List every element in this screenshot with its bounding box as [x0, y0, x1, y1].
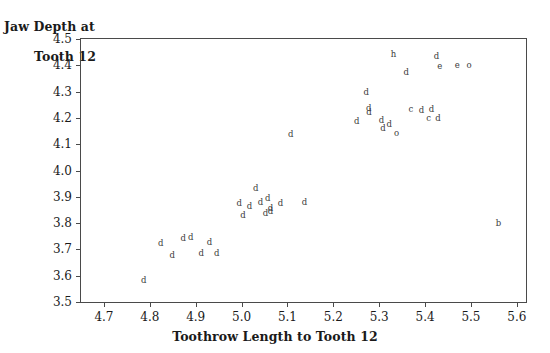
y-axis-tick	[76, 118, 81, 119]
x-axis-title: Toothrow Length to Tooth 12	[0, 329, 550, 344]
x-axis-tick	[104, 302, 105, 307]
data-point-marker: d	[354, 117, 359, 126]
data-point-marker: d	[240, 210, 245, 219]
data-point-marker: c	[408, 105, 413, 114]
x-axis-tick	[379, 302, 380, 307]
x-axis-tick-label: 5.5	[461, 310, 480, 324]
y-axis-tick	[76, 249, 81, 250]
data-point-marker: d	[435, 114, 440, 123]
y-axis-tick-label: 3.8	[53, 216, 72, 230]
data-point-marker: d	[207, 238, 212, 247]
data-point-marker: d	[434, 52, 439, 61]
plot-area: 4.54.44.34.24.14.03.93.83.73.63.54.74.84…	[80, 38, 527, 303]
y-axis-tick-label: 3.9	[53, 190, 72, 204]
data-point-marker: o	[467, 61, 472, 70]
data-point-marker: d	[258, 198, 263, 207]
data-point-marker: d	[366, 108, 371, 117]
x-axis-tick-label: 5.4	[416, 310, 435, 324]
data-point-marker: d	[278, 198, 283, 207]
data-point-marker: d	[253, 183, 258, 192]
y-axis-tick	[76, 171, 81, 172]
x-axis-tick	[333, 302, 334, 307]
x-axis-tick	[471, 302, 472, 307]
x-axis-tick-label: 5.1	[278, 310, 297, 324]
data-point-marker: d	[268, 207, 273, 216]
data-point-marker: d	[302, 198, 307, 207]
x-axis-tick	[517, 302, 518, 307]
data-point-marker: d	[429, 105, 434, 114]
data-point-marker: b	[496, 219, 501, 228]
x-axis-tick-label: 5.2	[324, 310, 343, 324]
data-point-marker: d	[188, 233, 193, 242]
data-point-marker: d	[404, 67, 409, 76]
y-axis-tick	[76, 223, 81, 224]
y-axis-tick-label: 4.4	[53, 58, 72, 72]
x-axis-tick-label: 4.8	[140, 310, 159, 324]
data-point-marker: d	[380, 123, 385, 132]
x-axis-tick	[150, 302, 151, 307]
y-axis-tick	[76, 65, 81, 66]
x-axis-tick	[425, 302, 426, 307]
x-axis-tick-label: 5.3	[370, 310, 389, 324]
data-point-marker: d	[170, 251, 175, 260]
data-point-marker: d	[265, 193, 270, 202]
y-axis-tick-label: 4.0	[53, 164, 72, 178]
x-axis-tick	[242, 302, 243, 307]
data-point-marker: c	[426, 114, 431, 123]
y-axis-tick-label: 3.7	[53, 242, 72, 256]
data-point-marker: d	[419, 105, 424, 114]
y-axis-tick-label: 4.3	[53, 85, 72, 99]
y-axis-tick	[76, 197, 81, 198]
data-point-marker: h	[391, 49, 396, 58]
data-point-marker: d	[198, 248, 203, 257]
data-point-marker: d	[247, 202, 252, 211]
y-axis-tick	[76, 302, 81, 303]
scatter-plot-figure: Jaw Depth at Tooth 12 4.54.44.34.24.14.0…	[0, 0, 550, 353]
y-axis-title-line-1: Jaw Depth at	[2, 19, 152, 34]
y-axis-tick	[76, 92, 81, 93]
x-axis-tick-label: 4.9	[186, 310, 205, 324]
x-axis-tick-label: 4.7	[94, 310, 113, 324]
x-axis-tick	[287, 302, 288, 307]
data-point-marker: d	[364, 87, 369, 96]
y-axis-tick	[76, 144, 81, 145]
y-axis-tick-label: 4.1	[53, 137, 72, 151]
y-axis-tick	[76, 39, 81, 40]
data-point-marker: d	[237, 198, 242, 207]
x-axis-tick	[196, 302, 197, 307]
data-point-marker: e	[437, 62, 442, 71]
data-point-marker: o	[394, 129, 399, 138]
y-axis-tick-label: 4.5	[53, 32, 72, 46]
y-axis-tick-label: 3.6	[53, 269, 72, 283]
data-point-marker: d	[214, 249, 219, 258]
data-point-marker: e	[455, 61, 460, 70]
data-point-marker: d	[158, 239, 163, 248]
x-axis-tick-label: 5.6	[507, 310, 526, 324]
data-point-marker: d	[141, 276, 146, 285]
x-axis-tick-label: 5.0	[232, 310, 251, 324]
y-axis-tick	[76, 276, 81, 277]
data-point-marker: d	[387, 119, 392, 128]
y-axis-tick-label: 4.2	[53, 111, 72, 125]
y-axis-tick-label: 3.5	[53, 295, 72, 309]
data-point-marker: d	[181, 234, 186, 243]
data-point-marker: d	[288, 130, 293, 139]
